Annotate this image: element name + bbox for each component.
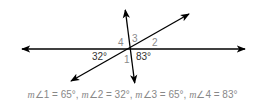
angle-83-label: 83° <box>136 51 151 62</box>
angle-32-label: 32° <box>92 51 107 62</box>
angle-2-label: 2 <box>152 37 158 48</box>
diagonal-line <box>71 14 189 81</box>
measure-angle-4: m∠4 = 83° <box>189 89 237 100</box>
steep-line <box>125 10 134 83</box>
angle-4-label: 4 <box>118 37 124 48</box>
measure-angle-3: m∠3 = 65° <box>135 89 183 100</box>
measure-angle-2: m∠2 = 32° <box>81 89 129 100</box>
angle-1-label: 1 <box>124 54 130 65</box>
measure-angle-1: m∠1 = 65° <box>28 89 76 100</box>
angle-3-label: 3 <box>132 33 138 44</box>
angle-measures-caption: m∠1 = 65°, m∠2 = 32°, m∠3 = 65°, m∠4 = 8… <box>0 89 265 100</box>
